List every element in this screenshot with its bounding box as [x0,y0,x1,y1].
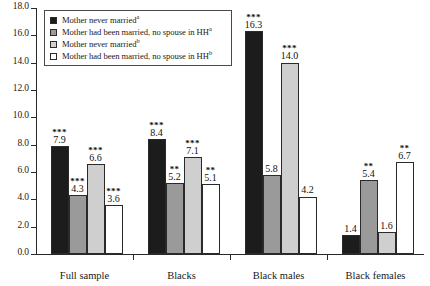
y-axis-tick-mark [31,172,36,173]
legend-label-superscript: b [136,37,139,44]
x-axis-tick-mark [327,255,328,260]
y-axis-tick-mark [31,145,36,146]
bar-group: 1.4**5.41.6**6.7 [342,8,414,254]
bar-significance-marker: *** [73,146,119,153]
y-axis-tick-label: 8.0 [17,138,29,148]
y-axis-tick-mark [31,117,36,118]
bar-significance-marker: *** [267,44,313,51]
y-axis-tick-mark [31,199,36,200]
bar-value-label: 7.9 [37,135,83,145]
bar [360,180,378,254]
y-axis-tick-mark [31,90,36,91]
bar [148,139,166,254]
y-axis-line [36,8,37,255]
bar-significance-marker: *** [231,13,277,20]
legend-label-superscript: a [209,25,212,32]
bar-data-label: ***16.3 [231,13,277,30]
y-axis-tick-label: 2.0 [17,220,29,230]
legend-item-label: Mother had been married, no spouse in HH… [62,27,212,37]
legend-item: Mother never marriedb [50,38,227,50]
bar-significance-marker: *** [134,121,180,128]
bar-value-label: 14.0 [267,51,313,61]
legend-item-label: Mother never marriedb [62,39,140,49]
legend-label-superscript: b [209,49,212,56]
x-axis-category-label: Full sample [36,270,133,281]
bar [202,184,220,254]
bar-chart-figure: 0.02.04.06.08.010.012.014.016.018.0 ***7… [0,0,430,286]
y-axis-tick-label: 0.0 [17,247,29,257]
legend-item: Mother never marrieda [50,14,227,26]
bar [281,63,299,254]
legend-color-swatch [50,29,57,36]
bar [378,232,396,254]
legend-item-label: Mother never marrieda [62,15,139,25]
y-axis-tick-mark [31,8,36,9]
bar [245,31,263,254]
legend-item: Mother had been married, no spouse in HH… [50,50,227,62]
y-axis-tick-mark [31,63,36,64]
y-axis-tick-label: 18.0 [13,1,29,11]
y-axis-tick-mark [31,35,36,36]
bar-value-label: 5.4 [346,169,392,179]
bar-data-label: **5.4 [346,162,392,179]
bar-value-label: 6.7 [382,151,428,161]
x-axis-category-label: Black males [230,270,327,281]
y-axis-tick-mark [31,227,36,228]
bar-data-label: ***8.4 [134,121,180,138]
chart-legend: Mother never marriedaMother had been mar… [44,10,232,66]
bar-data-label: ***14.0 [267,44,313,61]
y-axis-tick-label: 16.0 [13,28,29,38]
legend-color-swatch [50,17,57,24]
bar-value-label: 16.3 [231,20,277,30]
x-axis-category-label: Black females [327,270,424,281]
bar-value-label: 8.4 [134,128,180,138]
bar-data-label: ***7.9 [37,128,83,145]
y-axis-tick-label: 10.0 [13,110,29,120]
bar [184,157,202,254]
bar [342,235,360,254]
y-axis-tick-mark [31,254,36,255]
bar [69,195,87,254]
legend-label-superscript: a [136,13,139,20]
y-axis-tick-label: 4.0 [17,192,29,202]
bar [396,162,414,254]
x-axis-category-label: Blacks [133,270,230,281]
y-axis-tick-label: 14.0 [13,56,29,66]
bar-group: ***16.35.8***14.04.2 [245,8,317,254]
bar-data-label: ***6.6 [73,146,119,163]
bar-significance-marker: *** [170,139,216,146]
bar [87,164,105,254]
legend-item-label: Mother had been married, no spouse in HH… [62,51,212,61]
bar [51,146,69,254]
bar-significance-marker: ** [346,162,392,169]
bar-data-label: ***7.1 [170,139,216,156]
bar [105,205,123,254]
bar-significance-marker: *** [37,128,83,135]
legend-color-swatch [50,41,57,48]
legend-color-swatch [50,53,57,60]
bar-significance-marker: ** [382,144,428,151]
x-axis-tick-mark [230,255,231,260]
bar [166,183,184,254]
y-axis-tick-label: 6.0 [17,165,29,175]
bar [263,175,281,254]
bar-value-label: 6.6 [73,153,119,163]
bar-value-label: 7.1 [170,146,216,156]
bar-data-label: **6.7 [382,144,428,161]
x-axis-tick-mark [133,255,134,260]
bar [299,197,317,254]
y-axis-tick-label: 12.0 [13,83,29,93]
